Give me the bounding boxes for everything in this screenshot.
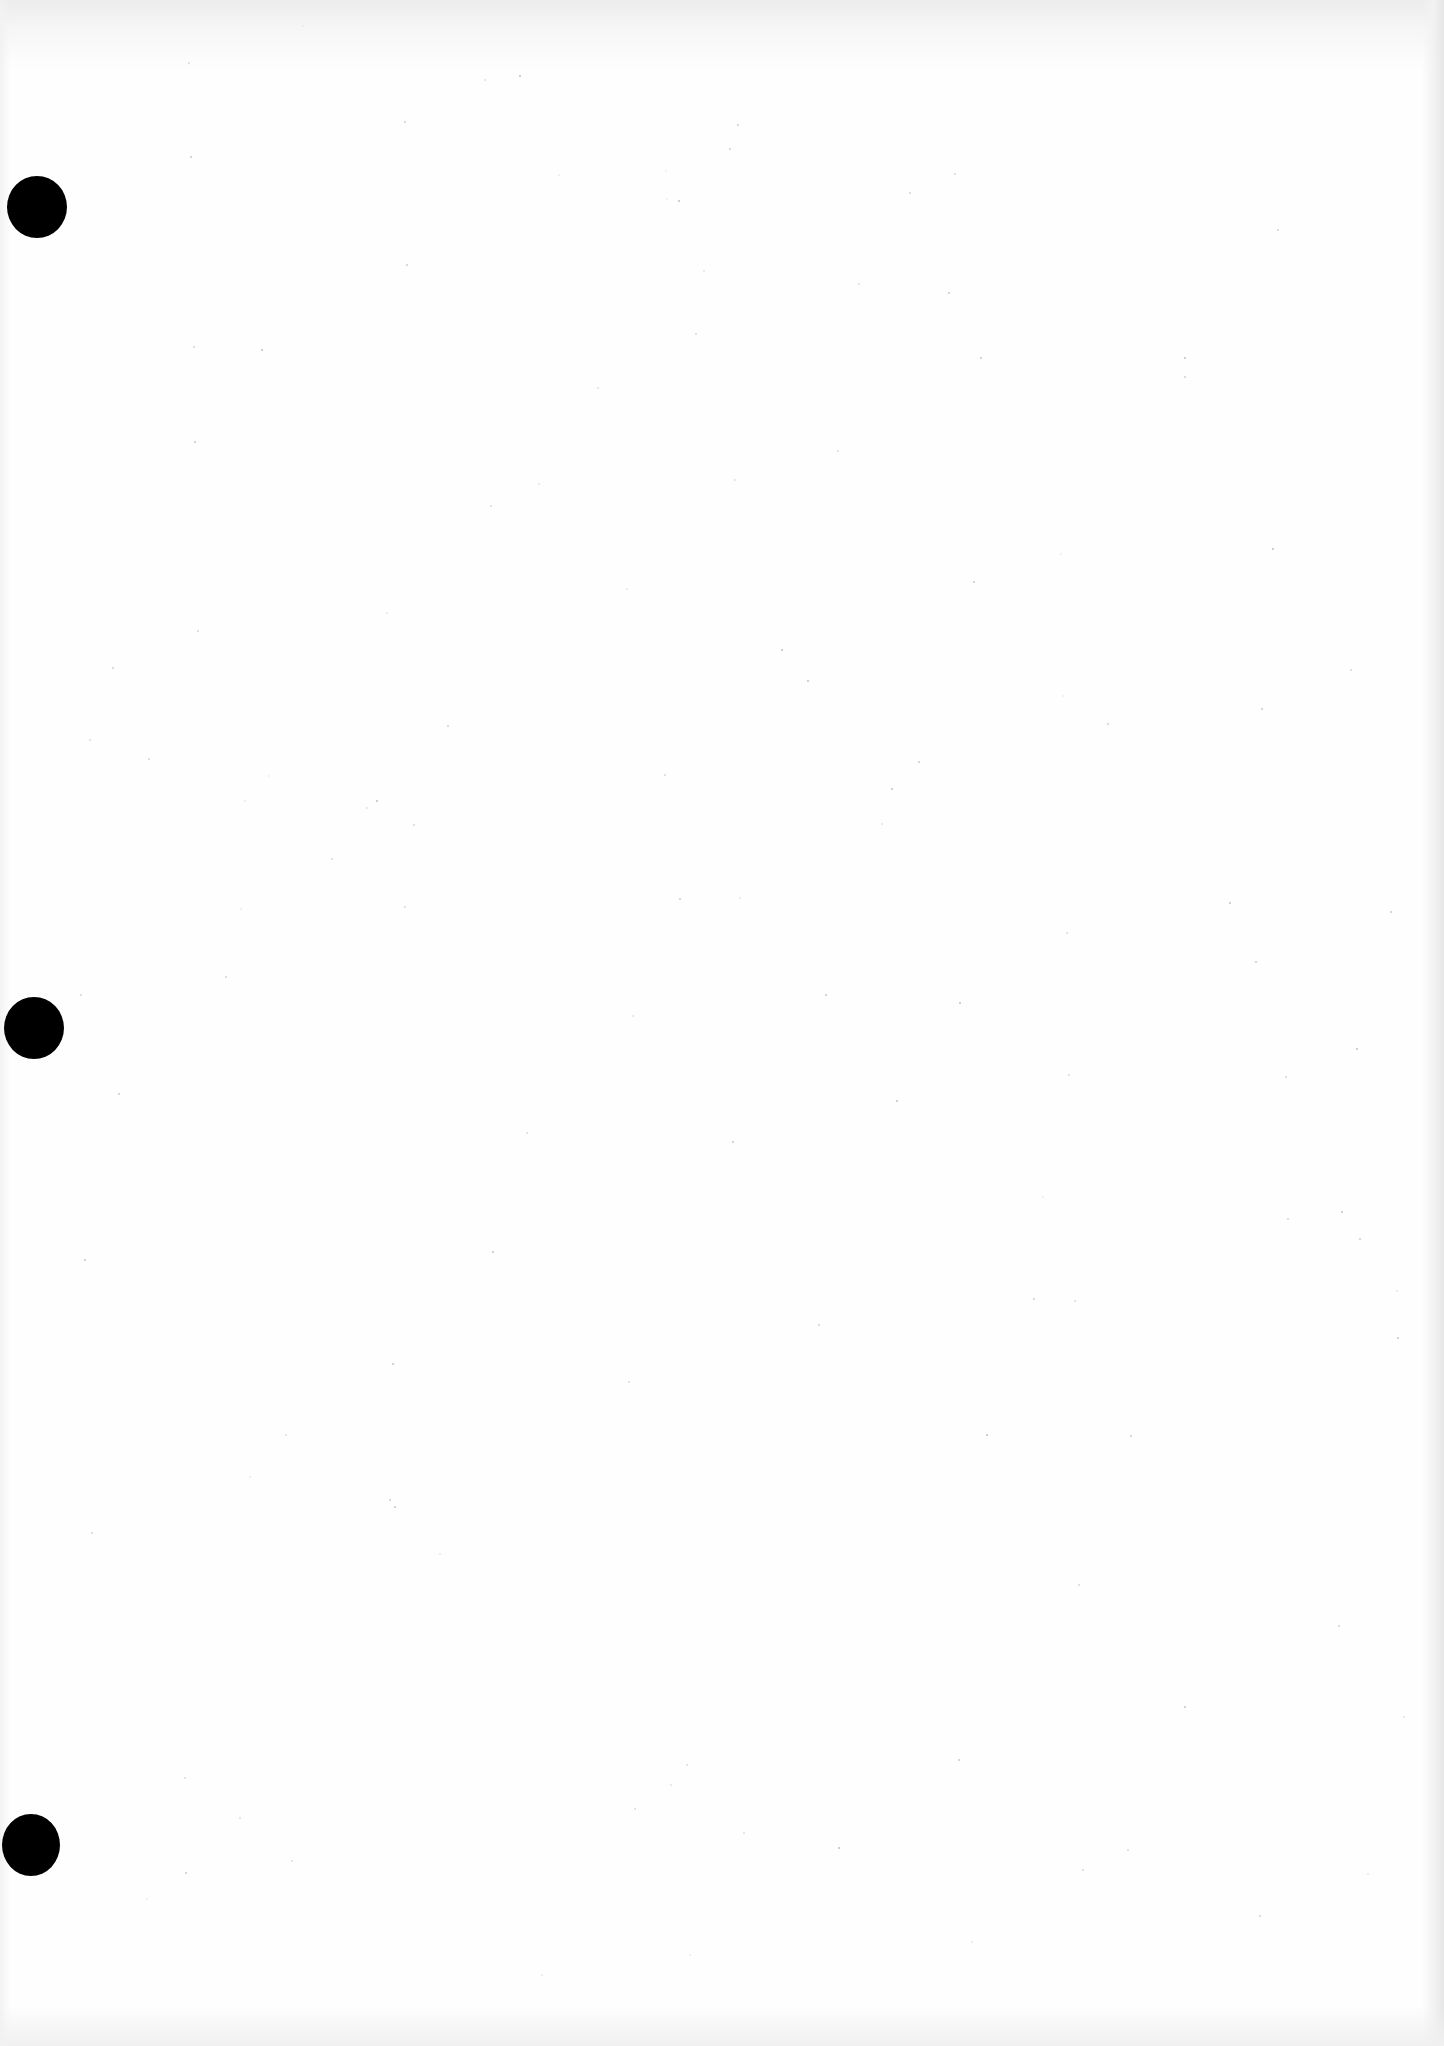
scan-speck xyxy=(1255,961,1257,963)
punch-hole-icon xyxy=(2,1814,60,1876)
scan-speck xyxy=(84,1259,86,1261)
scan-speck xyxy=(1287,1218,1289,1220)
scan-speck xyxy=(1184,376,1186,378)
scan-speck xyxy=(664,774,666,776)
scan-speck xyxy=(626,588,628,590)
scan-speck xyxy=(1078,1584,1080,1586)
scan-speck xyxy=(225,976,227,978)
scan-speck xyxy=(146,1898,148,1900)
scan-speck xyxy=(194,441,196,443)
scan-speck xyxy=(268,775,270,777)
scan-speck xyxy=(837,450,839,452)
scan-speck xyxy=(193,346,195,348)
scan-speck xyxy=(184,1777,186,1779)
scan-speck xyxy=(881,823,883,825)
scan-speck xyxy=(389,1499,391,1501)
scan-speck xyxy=(958,1759,960,1761)
scan-speck xyxy=(392,1363,394,1365)
scan-speck xyxy=(285,1434,287,1436)
scan-speck xyxy=(670,1784,672,1786)
scan-speck xyxy=(1397,1337,1399,1339)
scan-speck xyxy=(918,761,920,763)
scan-speck xyxy=(1403,1716,1405,1718)
scan-speck xyxy=(406,264,408,266)
scan-speck xyxy=(1060,553,1062,555)
scan-speck xyxy=(404,121,406,123)
scan-speck xyxy=(1350,669,1352,671)
scan-speck xyxy=(729,148,731,150)
scan-speck xyxy=(1359,1238,1361,1240)
scan-speck xyxy=(732,1141,734,1143)
scan-speck xyxy=(909,192,911,194)
scan-speck xyxy=(197,630,199,632)
scan-shadow-right xyxy=(1422,0,1444,2046)
scan-speck xyxy=(519,75,521,77)
scan-speck xyxy=(666,198,668,200)
scan-speck xyxy=(376,800,378,802)
scan-speck xyxy=(739,897,741,899)
scan-speck xyxy=(1127,1849,1129,1851)
scan-speck xyxy=(1341,1211,1343,1213)
scan-speck xyxy=(1285,1076,1287,1078)
scan-speck xyxy=(386,612,388,614)
scan-speck xyxy=(686,1764,688,1766)
scan-speck xyxy=(1277,229,1279,231)
scan-speck xyxy=(484,79,486,81)
scan-speck xyxy=(1082,1869,1084,1871)
scan-speck xyxy=(291,1860,293,1862)
scan-speck xyxy=(980,357,982,359)
scan-speck xyxy=(632,1015,634,1017)
scan-speck xyxy=(1184,357,1186,359)
scan-shadow-bottom xyxy=(0,2006,1444,2046)
scan-speck xyxy=(695,333,697,335)
scan-speck xyxy=(1390,911,1392,913)
scan-speck xyxy=(1062,695,1064,697)
scan-speck xyxy=(118,1093,120,1095)
scan-speck xyxy=(1338,1625,1340,1627)
scan-speck xyxy=(1042,1196,1044,1198)
scan-speck xyxy=(148,758,150,760)
scan-speck xyxy=(737,124,739,126)
scan-speck xyxy=(818,1324,820,1326)
scan-speck xyxy=(807,680,809,682)
scan-speck xyxy=(1261,708,1263,710)
scan-speck xyxy=(689,1954,691,1956)
scan-speck xyxy=(679,898,681,900)
scan-speck xyxy=(490,505,492,507)
scan-speck xyxy=(678,200,680,202)
scan-speck xyxy=(734,479,736,481)
scan-speck xyxy=(331,858,333,860)
scan-speck xyxy=(986,1434,988,1436)
scan-speck xyxy=(492,1251,494,1253)
scan-speck xyxy=(366,807,368,809)
scan-speck xyxy=(244,800,246,802)
scan-speck xyxy=(1259,1915,1261,1917)
scan-speck xyxy=(1068,1074,1070,1076)
punch-hole-icon xyxy=(4,997,64,1059)
scan-speck xyxy=(190,156,192,158)
scan-speck xyxy=(973,581,975,583)
scan-speck xyxy=(185,1872,187,1874)
scan-speck xyxy=(447,725,449,727)
scan-speck xyxy=(538,483,540,485)
scan-speck xyxy=(302,25,304,27)
punch-hole-icon xyxy=(7,176,67,238)
scan-speck xyxy=(1066,932,1068,934)
scan-speck xyxy=(261,349,263,351)
scan-speck xyxy=(959,1002,961,1004)
scan-speck xyxy=(1356,1048,1358,1050)
scan-speck xyxy=(858,283,860,285)
scan-speck xyxy=(634,1808,636,1810)
scan-speck xyxy=(1367,1873,1369,1875)
scan-speck xyxy=(1130,1435,1132,1437)
scan-speck xyxy=(112,667,114,669)
scan-speck xyxy=(239,1817,241,1819)
scan-speck xyxy=(394,1506,396,1508)
scan-speck xyxy=(240,908,242,910)
scan-speck xyxy=(526,1132,528,1134)
scan-speck xyxy=(188,62,190,64)
scan-speck xyxy=(80,994,82,996)
scan-speck xyxy=(439,1553,441,1555)
scan-speck xyxy=(948,292,950,294)
scan-speck xyxy=(91,1532,93,1534)
